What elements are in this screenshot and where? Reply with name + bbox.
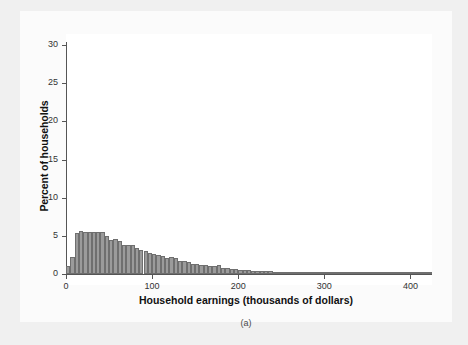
chart-axes: Percent of households Household earnings… bbox=[0, 0, 468, 345]
x-axis-title: Household earnings (thousands of dollars… bbox=[66, 294, 426, 306]
x-tick-mark bbox=[66, 275, 67, 279]
x-axis-line bbox=[66, 274, 432, 275]
histogram-bar bbox=[428, 272, 432, 274]
x-tick-label: 200 bbox=[218, 281, 258, 291]
x-tick-label: 400 bbox=[390, 281, 430, 291]
x-tick-mark bbox=[410, 275, 411, 279]
figure-caption: (a) bbox=[66, 318, 426, 328]
x-tick-label: 100 bbox=[132, 281, 172, 291]
x-tick-label: 300 bbox=[304, 281, 344, 291]
x-tick-mark bbox=[152, 275, 153, 279]
x-tick-mark bbox=[324, 275, 325, 279]
histogram-bars bbox=[0, 0, 468, 274]
x-tick-mark bbox=[238, 275, 239, 279]
x-tick-label: 0 bbox=[46, 281, 86, 291]
figure-panel: Percent of households Household earnings… bbox=[0, 0, 468, 345]
